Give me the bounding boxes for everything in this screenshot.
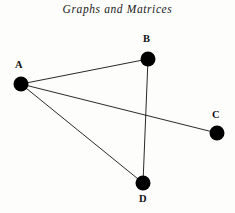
graph-node-b xyxy=(141,52,156,67)
node-label-a: A xyxy=(15,60,23,71)
graph-figure: Graphs and Matrices ABCD xyxy=(0,0,235,213)
node-label-b: B xyxy=(143,34,150,45)
graph-node-a xyxy=(14,77,29,92)
edge-layer xyxy=(21,59,217,183)
node-layer xyxy=(14,52,225,191)
graph-edge-b-d xyxy=(143,59,148,183)
graph-canvas xyxy=(0,0,235,213)
graph-node-c xyxy=(210,126,225,141)
graph-node-d xyxy=(136,176,151,191)
graph-edge-a-b xyxy=(21,59,148,84)
node-label-d: D xyxy=(139,194,147,205)
node-label-c: C xyxy=(212,110,220,121)
graph-edge-a-c xyxy=(21,84,217,133)
